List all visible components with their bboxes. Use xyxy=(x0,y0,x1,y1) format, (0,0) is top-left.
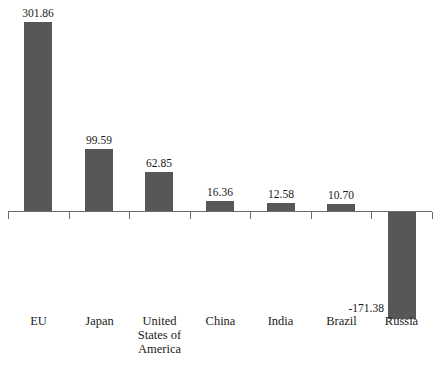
x-axis-category-label: Russia xyxy=(366,314,437,328)
bar xyxy=(267,203,295,211)
x-axis-tick xyxy=(190,212,191,219)
bar xyxy=(85,149,113,211)
plot-area: 301.86EU99.59Japan62.85United States of … xyxy=(0,0,444,369)
bar-value-label: 16.36 xyxy=(190,186,250,198)
x-axis-tick xyxy=(69,212,70,219)
x-axis-tick xyxy=(129,212,130,219)
x-axis-tick xyxy=(371,212,372,219)
bar-value-label: 62.85 xyxy=(129,157,189,169)
bar-value-label: 10.70 xyxy=(311,189,371,201)
bar xyxy=(388,212,416,319)
bar xyxy=(24,22,52,211)
bar xyxy=(206,201,234,211)
bar xyxy=(327,204,355,211)
x-axis-tick xyxy=(311,212,312,219)
x-axis-line xyxy=(8,211,432,212)
bar xyxy=(145,172,173,211)
bar-value-label: -171.38 xyxy=(314,302,384,314)
x-axis-tick xyxy=(250,212,251,219)
bar-value-label: 301.86 xyxy=(8,7,68,19)
bar-value-label: 12.58 xyxy=(251,188,311,200)
bar-chart: 301.86EU99.59Japan62.85United States of … xyxy=(0,0,444,369)
x-axis-tick xyxy=(8,212,9,219)
x-axis-tick xyxy=(432,212,433,219)
bar-value-label: 99.59 xyxy=(69,134,129,146)
